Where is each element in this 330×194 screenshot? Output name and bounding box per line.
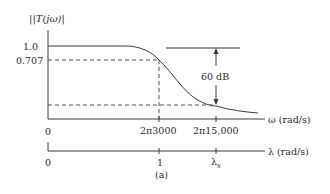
omega-origin-label: 0 xyxy=(45,127,51,137)
y-tick-0-707: 0.707 xyxy=(16,56,43,66)
figure-caption: (a) xyxy=(155,170,168,180)
y-axis-label-text: |T(jω)| xyxy=(32,13,64,24)
omega-tick-label-2pi15000: 2π15,000 xyxy=(193,126,239,136)
arrowhead-up-icon xyxy=(214,48,219,54)
lambda-tick-label-lambda-x: λx xyxy=(211,157,221,170)
omega-tick-label-2pi3000: 2π3000 xyxy=(140,126,176,136)
y-tick-1-0: 1.0 xyxy=(23,42,38,52)
lambda-tick-label-1: 1 xyxy=(157,158,163,168)
lambda-origin-label: 0 xyxy=(45,158,51,168)
arrowhead-down-icon xyxy=(214,99,219,105)
lambda-x-sub: x xyxy=(217,162,221,170)
y-axis-label: ||T(jω)| xyxy=(29,14,65,24)
attenuation-label: 60 dB xyxy=(200,72,230,82)
omega-axis-label: ω (rad/s) xyxy=(268,115,311,125)
lambda-axis-label: λ (rad/s) xyxy=(268,147,309,157)
